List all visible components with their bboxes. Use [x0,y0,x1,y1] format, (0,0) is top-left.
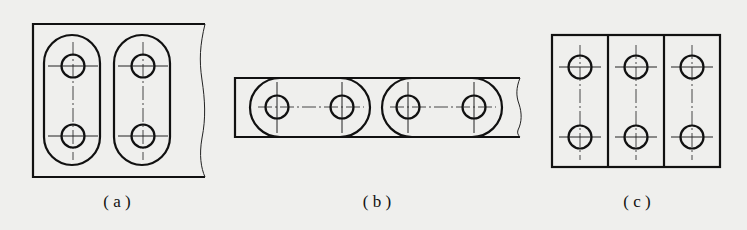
break-line [517,78,521,137]
break-line [200,24,205,177]
plate-outline [235,78,520,137]
panel-c: ( c ) [552,35,720,211]
panel-caption: ( b ) [363,192,391,211]
technical-drawing-figure: .thick { stroke: #111; stroke-width: 2.2… [0,0,747,230]
panel-caption: ( a ) [103,192,130,211]
panel-caption: ( c ) [623,192,650,211]
panel-b: ( b ) [235,78,521,211]
slot-outline [250,78,370,137]
panel-a: ( a ) [33,24,205,211]
slot-outline [382,78,502,137]
